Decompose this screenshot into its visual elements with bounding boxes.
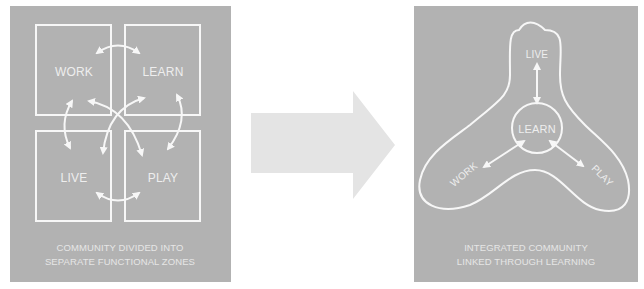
zone-label-live: LIVE	[61, 171, 88, 185]
arrow-live-play	[97, 193, 139, 201]
zone-label-play: PLAY	[148, 171, 179, 185]
arrow-work-play	[89, 101, 142, 155]
lobe-label-live: LIVE	[526, 49, 549, 60]
zone-label-learn: LEARN	[142, 65, 183, 79]
right-caption-line1: INTEGRATED COMMUNITY	[464, 242, 588, 253]
arrow-learn-play	[168, 95, 182, 149]
arrow-learn-play	[550, 141, 583, 166]
diagram-canvas: WORK LEARN LIVE PLAY COMMUNITY DIVIDED I…	[0, 0, 644, 289]
right-caption-line2: LINKED THROUGH LEARNING	[457, 256, 595, 267]
zone-label-work: WORK	[55, 65, 93, 79]
arrow-work-learn	[97, 46, 139, 54]
transition-arrow-icon	[251, 91, 395, 199]
arrow-learn-work	[484, 141, 524, 167]
left-caption-line1: COMMUNITY DIVIDED INTO	[57, 242, 184, 253]
hub-label-learn: LEARN	[518, 123, 556, 135]
lobe-label-work: WORK	[448, 160, 480, 189]
lobe-label-play: PLAY	[590, 163, 616, 189]
left-caption-line2: SEPARATE FUNCTIONAL ZONES	[45, 256, 195, 267]
arrow-work-live	[64, 101, 72, 148]
